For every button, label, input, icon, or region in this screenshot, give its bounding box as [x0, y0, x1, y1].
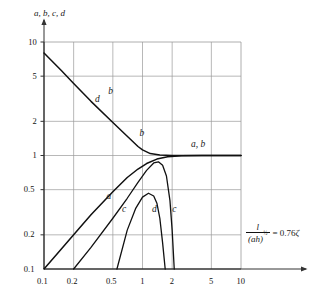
- y-tick-label: 5: [33, 72, 37, 81]
- label-d-upper: d: [95, 95, 100, 105]
- formula-equals: = 0.76ζ: [273, 228, 300, 238]
- y-tick-label: 2: [33, 117, 37, 126]
- x-tick-label: 2: [170, 277, 174, 286]
- label-b-upper: b: [108, 87, 113, 97]
- x-tick-label: 0.1: [37, 277, 48, 286]
- label-c-lower: c: [122, 205, 126, 215]
- x-tick-label: 5: [209, 277, 213, 286]
- label-a-lower: a: [106, 192, 111, 202]
- formula-annotation: l (ah)½ = 0.76ζ: [246, 222, 299, 244]
- label-ab-right: a, b: [191, 140, 205, 150]
- label-b-mid: b: [139, 129, 144, 139]
- x-tick-label: 0.5: [106, 277, 117, 286]
- formula-fraction: l (ah)½: [246, 222, 270, 244]
- y-tick-label: 0.1: [24, 265, 35, 274]
- y-tick-label: 0.2: [24, 230, 35, 239]
- x-tick-label: 10: [236, 277, 245, 286]
- label-c-right: c: [172, 205, 176, 215]
- x-tick-label: 0.2: [67, 277, 78, 286]
- x-tick-label: 1: [140, 277, 144, 286]
- label-d-lower: d: [152, 205, 157, 215]
- formula-denominator: (ah)½: [246, 233, 270, 244]
- log-log-chart: [0, 0, 321, 297]
- y-axis-title: a, b, c, d: [34, 9, 65, 18]
- y-tick-label: 1: [33, 151, 37, 160]
- y-tick-label: 10: [28, 38, 37, 47]
- y-tick-label: 0.5: [24, 185, 35, 194]
